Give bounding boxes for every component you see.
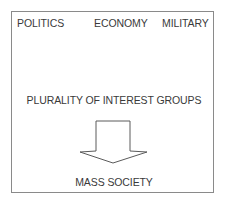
- label-mass-society: MASS SOCIETY: [0, 177, 228, 188]
